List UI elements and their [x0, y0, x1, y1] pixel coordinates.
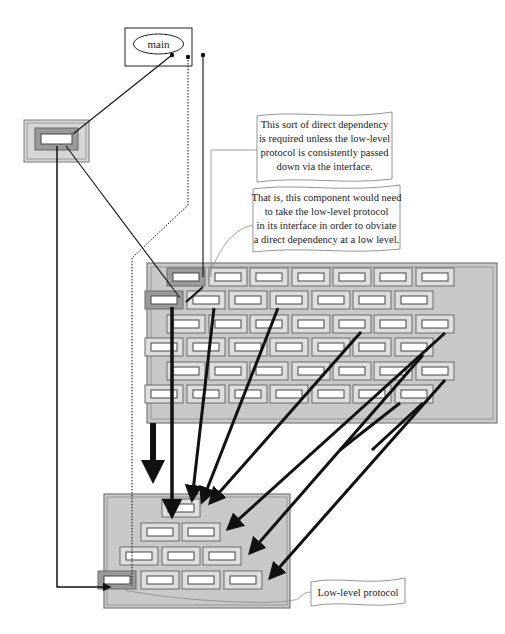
- upper-grid-tile-slot: [173, 273, 199, 281]
- lower-grid-tile-slot: [230, 576, 256, 584]
- upper-grid-tile-slot: [422, 367, 448, 375]
- upper-grid-tile-slot: [235, 390, 261, 398]
- upper-grid-tile: [292, 315, 330, 333]
- upper-grid-tile: [416, 362, 454, 380]
- lower-grid-tile: [203, 547, 241, 565]
- low-level-protocol-label: Low-level protocol: [311, 578, 405, 606]
- upper-grid-tile-slot: [318, 390, 344, 398]
- upper-grid-tile: [416, 315, 454, 333]
- upper-grid-tile-slot: [256, 320, 282, 328]
- callout1-leader-line: [211, 150, 257, 277]
- upper-grid-tile-slot: [359, 343, 385, 351]
- lower-grid-tile: [182, 571, 220, 589]
- upper-grid-tile-slot: [380, 273, 406, 281]
- upper-grid-tile-slot: [215, 273, 241, 281]
- interface-note-line: in its interface in order to obviate: [257, 220, 397, 231]
- lower-grid-tile-slot: [209, 552, 235, 560]
- direct-dependency-note-line: This sort of direct dependency: [261, 119, 389, 130]
- upper-grid-tile: [145, 338, 183, 356]
- upper-grid-tile-slot: [193, 296, 219, 304]
- low-level-protocol-label-line: Low-level protocol: [318, 587, 399, 598]
- upper-grid-tile-slot: [318, 296, 344, 304]
- upper-grid-tile: [395, 291, 433, 309]
- lower-grid-tile: [182, 523, 220, 541]
- upper-grid-tile-slot: [215, 367, 241, 375]
- upper-grid-tile: [416, 268, 454, 286]
- upper-grid-tile: [270, 291, 308, 309]
- upper-grid-tile: [145, 385, 183, 403]
- upper-grid-tile: [167, 268, 205, 286]
- upper-grid-tile-slot: [276, 343, 302, 351]
- upper-grid-tile-slot: [173, 320, 199, 328]
- upper-grid-tile: [270, 338, 308, 356]
- upper-grid-tile: [333, 362, 371, 380]
- upper-grid-tile-slot: [359, 296, 385, 304]
- upper-grid-tile-slot: [401, 296, 427, 304]
- upper-grid-tile: [209, 362, 247, 380]
- upper-grid-tile-slot: [276, 296, 302, 304]
- upper-grid-tile: [250, 268, 288, 286]
- upper-grid-tile-slot: [422, 273, 448, 281]
- upper-grid-tile: [292, 362, 330, 380]
- upper-grid-tile: [209, 268, 247, 286]
- upper-grid-tile-slot: [318, 343, 344, 351]
- upper-grid-tile: [312, 338, 350, 356]
- lower-grid-tile: [120, 547, 158, 565]
- upper-grid-tile-slot: [339, 273, 365, 281]
- lower-grid-tile: [141, 523, 179, 541]
- upper-grid-tile-slot: [235, 296, 261, 304]
- upper-grid-tile-slot: [215, 320, 241, 328]
- interface-note-line: That is, this component would need: [252, 192, 403, 203]
- upper-grid-tile: [333, 268, 371, 286]
- interface-note: That is, this component would needto tak…: [252, 185, 403, 252]
- upper-grid-tile-slot: [173, 367, 199, 375]
- left-component-to-upper-grid-line: [66, 146, 180, 298]
- upper-grid-tile: [374, 362, 412, 380]
- upper-grid-tile: [292, 268, 330, 286]
- upper-grid-tile-slot: [298, 367, 324, 375]
- upper-grid-tile-slot: [276, 390, 302, 398]
- direct-dependency-note: This sort of direct dependencyis require…: [257, 112, 392, 182]
- upper-grid-tile-slot: [380, 320, 406, 328]
- upper-grid-tile-slot: [339, 367, 365, 375]
- upper-grid-tile-slot: [339, 320, 365, 328]
- lower-grid-tile-slot: [188, 528, 214, 536]
- dependency-diagram: main: [0, 0, 505, 634]
- upper-grid-tile-slot: [401, 390, 427, 398]
- upper-grid-tile-slot: [298, 273, 324, 281]
- lower-grid-tile-slot: [147, 576, 173, 584]
- lower-grid-tile: [141, 571, 179, 589]
- upper-grid-tile-slot: [193, 343, 219, 351]
- upper-grid-tile-slot: [256, 367, 282, 375]
- lower-grid-tile-slot: [147, 528, 173, 536]
- left-component-to-protocol-line: [57, 146, 110, 587]
- direct-dependency-note-line: protocol is consistently passed: [260, 147, 389, 158]
- lower-grid-tile: [162, 547, 200, 565]
- upper-grid-tile-slot: [235, 343, 261, 351]
- main-to-left-component-line: [73, 55, 172, 134]
- interface-note-line: to take the low-level protocol: [265, 206, 389, 217]
- lower-grid-tile-slot: [168, 552, 194, 560]
- upper-grid-tile: [187, 338, 225, 356]
- upper-grid-tile-slot: [401, 343, 427, 351]
- direct-dependency-note-line: is required unless the low-level: [259, 133, 390, 144]
- upper-grid-tile-slot: [256, 273, 282, 281]
- lower-grid-tile-slot: [104, 576, 130, 584]
- upper-grid-tile-slot: [151, 296, 177, 304]
- upper-grid-tile: [312, 385, 350, 403]
- upper-grid-tile: [209, 315, 247, 333]
- lower-grid-tile: [224, 571, 262, 589]
- upper-grid-tile: [312, 291, 350, 309]
- lower-grid-tile: [162, 499, 200, 517]
- main-module-label: main: [148, 38, 170, 50]
- interface-note-line: a direct dependency at a low level.: [254, 234, 399, 245]
- upper-grid-tile: [374, 268, 412, 286]
- lower-grid-tile-slot: [188, 576, 214, 584]
- upper-grid-tile: [374, 315, 412, 333]
- upper-grid-tile-slot: [193, 390, 219, 398]
- left-component-slot: [41, 134, 72, 144]
- lower-grid-tile-slot: [126, 552, 152, 560]
- upper-grid-tile-slot: [422, 320, 448, 328]
- upper-grid-tile: [187, 291, 225, 309]
- upper-grid-tile: [229, 291, 267, 309]
